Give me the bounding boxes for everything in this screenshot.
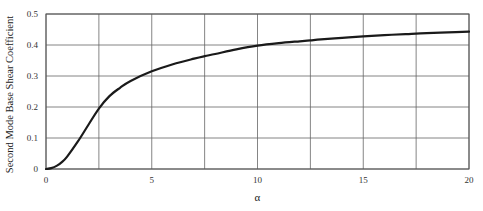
y-tick-label: 0.5: [27, 9, 39, 19]
x-axis-label: α: [255, 191, 261, 203]
line-chart: 00.10.20.30.40.5 05101520 α Second Mode …: [0, 0, 483, 211]
y-tick-label: 0.2: [27, 102, 38, 112]
x-tick-label: 15: [359, 175, 369, 185]
y-tick-label: 0: [34, 164, 39, 174]
y-axis-label: Second Mode Base Shear Coefficient: [4, 16, 15, 173]
grid-lines: [46, 14, 469, 169]
y-tick-label: 0.4: [27, 40, 39, 50]
x-tick-label: 5: [150, 175, 155, 185]
x-tick-label: 10: [253, 175, 263, 185]
y-tick-label: 0.1: [27, 133, 38, 143]
y-tick-label: 0.3: [27, 71, 39, 81]
x-tick-label: 0: [44, 175, 49, 185]
x-axis-ticks: 05101520: [44, 175, 474, 185]
y-axis-ticks: 00.10.20.30.40.5: [27, 9, 39, 174]
x-tick-label: 20: [465, 175, 475, 185]
